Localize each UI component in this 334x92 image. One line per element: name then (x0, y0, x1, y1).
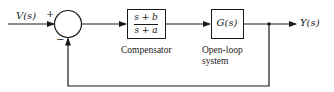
plus-sign: + (46, 8, 54, 19)
output-label: Y(s) (300, 17, 320, 28)
plant-block: G(s) (211, 9, 244, 39)
minus-sign: − (56, 34, 64, 45)
compensator-block: s + b s + a (127, 9, 166, 39)
compensator-denominator: s + a (128, 25, 164, 35)
input-label: V(s) (16, 10, 36, 21)
compensator-caption: Compensator (121, 45, 172, 55)
plant-caption-line2: system (202, 56, 228, 66)
plant-transfer-function: G(s) (212, 17, 242, 28)
compensator-numerator: s + b (128, 12, 164, 22)
plant-caption-line1: Open-loop (202, 45, 243, 55)
block-diagram: V(s) + − s + b s + a Compensator G(s) Op… (0, 0, 334, 92)
